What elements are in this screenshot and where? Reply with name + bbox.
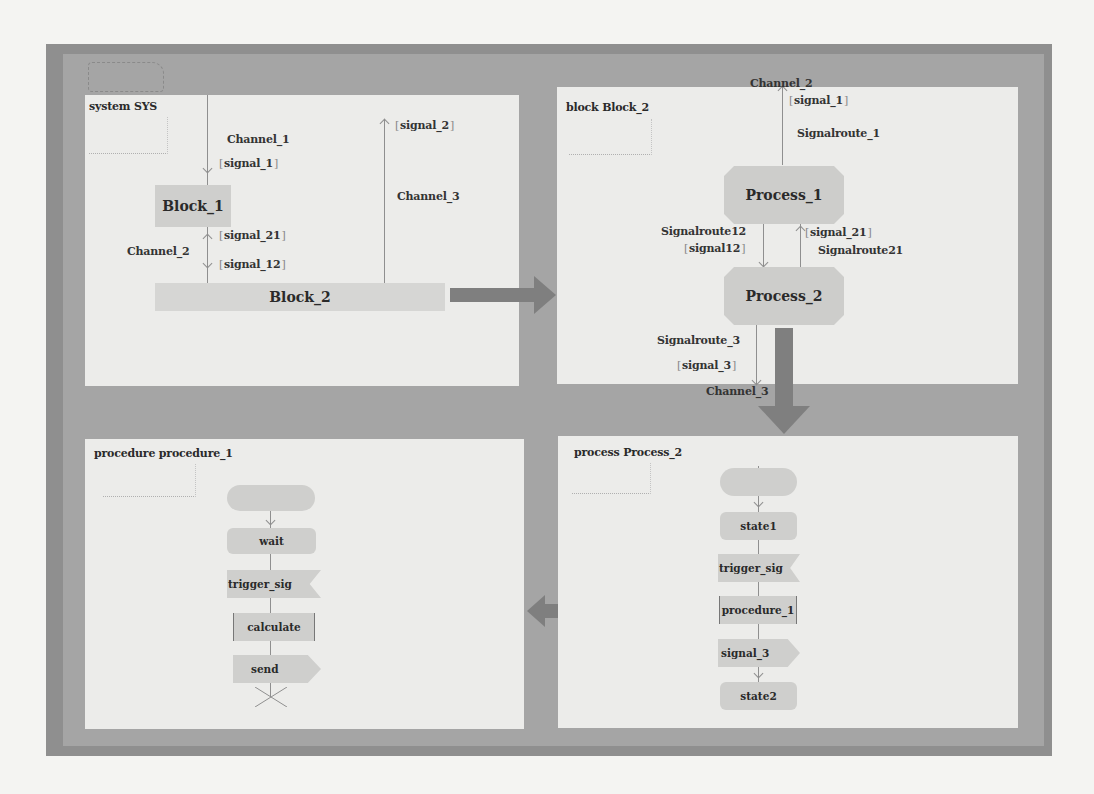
arrow-left-icon [527, 595, 545, 627]
heading-placeholder [569, 119, 652, 155]
input-trigger-sig[interactable]: trigger_sig [227, 570, 321, 598]
block-2[interactable]: Block_2 [155, 283, 445, 311]
arrow-down-icon [266, 516, 276, 526]
arrow-up-icon [203, 234, 213, 244]
block-1[interactable]: Block_1 [155, 185, 231, 227]
procedure-panel: procedure procedure_1 wait trigger_sig c… [85, 439, 524, 729]
arrow-down-icon [203, 164, 213, 174]
signalroute-label: Signalroute_3 [657, 334, 740, 347]
state-state2[interactable]: state2 [720, 682, 797, 710]
start-symbol[interactable] [720, 468, 797, 496]
signal-list: signal_12 [219, 258, 286, 271]
external-channel-label: Channel_3 [706, 385, 768, 398]
arrow-down-icon [754, 498, 764, 508]
signalroute-label: Signalroute21 [818, 244, 903, 257]
process-panel: process Process_2 state1 trigger_sig pro… [558, 436, 1018, 728]
arrow-down-icon [752, 376, 762, 386]
step-label: wait [259, 535, 284, 547]
panel-title: procedure procedure_1 [94, 447, 233, 460]
process-label: Process_1 [745, 187, 822, 203]
block-label: Block_1 [162, 198, 223, 214]
heading-placeholder [103, 464, 196, 497]
zoom-arrow-right [450, 288, 536, 302]
channel-label: Channel_3 [397, 190, 459, 203]
signalroute-label: Signalroute_1 [797, 127, 880, 140]
frame-tab [88, 62, 164, 92]
signal-list: signal12 [684, 242, 745, 255]
heading-placeholder [89, 117, 168, 154]
heading-placeholder [572, 463, 651, 494]
arrow-down-icon [203, 259, 213, 269]
channel-label: Channel_2 [127, 245, 189, 258]
state-state1[interactable]: state1 [720, 512, 797, 540]
start-symbol[interactable] [227, 485, 315, 511]
step-label: signal_3 [721, 647, 769, 659]
output-send[interactable]: send [233, 655, 321, 683]
process-1[interactable]: Process_1 [724, 166, 844, 224]
step-label: trigger_sig [719, 562, 783, 574]
signalroute-label: Signalroute12 [661, 225, 746, 238]
arrow-up-icon [380, 119, 390, 129]
state-wait[interactable]: wait [227, 528, 316, 554]
panel-title: process Process_2 [574, 446, 682, 459]
signal-list: signal_1 [219, 157, 278, 170]
channel-3-line [384, 119, 385, 283]
step-label: state1 [740, 520, 776, 532]
arrow-down-icon [758, 406, 810, 434]
step-label: state2 [740, 690, 776, 702]
input-trigger-sig[interactable]: trigger_sig [718, 554, 800, 582]
block-label: Block_2 [269, 289, 330, 305]
panel-title: block Block_2 [566, 101, 649, 114]
step-label: trigger_sig [228, 578, 292, 590]
system-panel: system SYS Channel_1 signal_1 Block_1 Ch… [85, 95, 519, 386]
external-channel-label: Channel_2 [750, 77, 812, 90]
step-label: calculate [247, 621, 301, 633]
stop-icon [255, 687, 287, 707]
arrow-down-icon [754, 669, 764, 679]
signal-list: signal_2 [395, 119, 454, 132]
channel-label: Channel_1 [227, 133, 289, 146]
signal-list: signal_21 [219, 229, 286, 242]
signal-list: signal_21 [805, 226, 872, 239]
arrow-right-icon [534, 276, 556, 314]
arrow-down-icon [759, 258, 769, 268]
procedure-call-calculate[interactable]: calculate [233, 613, 315, 641]
arrow-up-icon [796, 226, 806, 236]
process-2[interactable]: Process_2 [724, 267, 844, 325]
signalroute-1-line [782, 85, 783, 165]
signal-list: signal_3 [677, 359, 736, 372]
procedure-call-procedure-1[interactable]: procedure_1 [719, 596, 797, 624]
process-label: Process_2 [745, 288, 822, 304]
signal-list: signal_1 [789, 94, 848, 107]
step-label: procedure_1 [722, 604, 795, 616]
output-signal-3[interactable]: signal_3 [718, 639, 800, 667]
zoom-arrow-down [775, 328, 793, 408]
panel-title: system SYS [89, 100, 157, 113]
step-label: send [251, 663, 279, 675]
